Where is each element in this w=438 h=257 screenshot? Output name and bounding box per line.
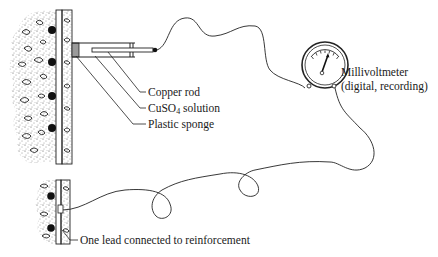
label-copper-rod: Copper rod bbox=[148, 86, 200, 99]
meter-terminal-left bbox=[307, 84, 311, 88]
label-cuso4-solution: CuSO4 solution bbox=[148, 102, 220, 118]
label-cuso4-prefix: CuSO bbox=[148, 102, 176, 114]
label-lead-reinforcement: One lead connected to reinforcement bbox=[80, 234, 250, 247]
concrete-block-upper bbox=[9, 10, 72, 164]
meter-terminal-right bbox=[332, 84, 336, 88]
plastic-sponge-shape bbox=[72, 43, 79, 57]
label-cuso4-suffix: solution bbox=[180, 102, 220, 114]
leader-lines bbox=[62, 52, 146, 240]
copper-sulfate-electrode bbox=[72, 43, 157, 57]
label-millivoltmeter: Millivoltmeter bbox=[341, 66, 408, 79]
concrete-block-lower bbox=[35, 180, 70, 244]
label-meter-type: (digital, recording) bbox=[341, 80, 428, 93]
diagram-drawing bbox=[0, 0, 438, 257]
label-plastic-sponge: Plastic sponge bbox=[148, 118, 214, 131]
diagram-canvas: Copper rod CuSO4 solution Plastic sponge… bbox=[0, 0, 438, 257]
copper-rod-shape bbox=[92, 48, 153, 52]
upper-lead-wire bbox=[157, 18, 305, 88]
